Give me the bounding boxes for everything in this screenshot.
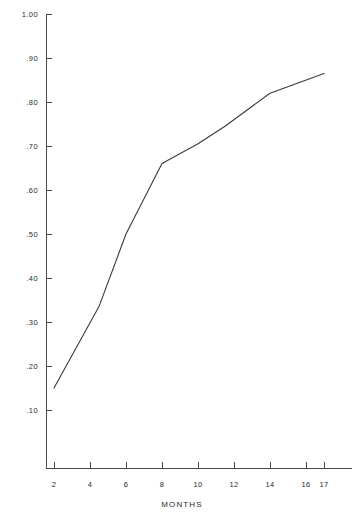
x-tick-label: 2 bbox=[52, 480, 57, 489]
y-tick-label: .90 bbox=[4, 54, 38, 63]
data-line-group bbox=[54, 73, 324, 388]
data-line-1 bbox=[54, 73, 324, 388]
y-tick-label: .50 bbox=[4, 230, 38, 239]
y-tick-label: .70 bbox=[4, 142, 38, 151]
y-tick-label: .30 bbox=[4, 318, 38, 327]
line-chart: .10.20.30.40.50.60.70.80.901.00 24681012… bbox=[0, 0, 364, 520]
x-tick-label: 17 bbox=[319, 480, 328, 489]
x-tick-label: 12 bbox=[229, 480, 238, 489]
y-tick-label: .60 bbox=[4, 186, 38, 195]
plot-area bbox=[0, 0, 364, 520]
y-tick-label: .20 bbox=[4, 362, 38, 371]
tickmark-group bbox=[46, 14, 324, 468]
x-tick-label: 10 bbox=[193, 480, 202, 489]
x-tick-label: 6 bbox=[124, 480, 129, 489]
x-tick-label: 4 bbox=[88, 480, 93, 489]
axis-group bbox=[46, 14, 352, 468]
x-tick-label: 14 bbox=[265, 480, 274, 489]
x-tick-label: 8 bbox=[160, 480, 165, 489]
x-axis-title: MONTHS bbox=[0, 500, 364, 509]
y-tick-label: 1.00 bbox=[4, 10, 38, 19]
x-tick-label: 16 bbox=[301, 480, 310, 489]
y-tick-label: .10 bbox=[4, 406, 38, 415]
y-tick-label: .40 bbox=[4, 274, 38, 283]
y-tick-label: .80 bbox=[4, 98, 38, 107]
